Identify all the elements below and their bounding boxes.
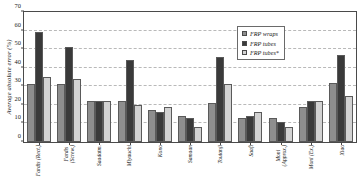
bar bbox=[43, 77, 51, 142]
bar bbox=[95, 101, 103, 142]
x-axis-label-cell: Fardis(Screw.) bbox=[53, 144, 83, 191]
bar-group bbox=[145, 12, 175, 142]
bar-group bbox=[84, 12, 114, 142]
x-axis-label: Moni (Ex.) bbox=[308, 145, 314, 169]
bar-group bbox=[115, 12, 145, 142]
bar bbox=[87, 101, 95, 142]
x-axis-label-cell: Kono bbox=[144, 144, 174, 191]
bar bbox=[277, 122, 285, 142]
x-axis-label-cell: Miyauchi bbox=[114, 144, 144, 191]
y-axis-title: Average absolute error (%) bbox=[5, 12, 12, 142]
x-axis-label-cell: Samaan bbox=[175, 144, 205, 191]
bar bbox=[27, 84, 35, 142]
bar bbox=[73, 79, 81, 142]
x-axis-label-cell: Saadatm. bbox=[84, 144, 114, 191]
legend-item: FRP tubes bbox=[242, 40, 279, 47]
bar bbox=[329, 83, 337, 142]
y-axis-tick-label: 70 bbox=[15, 2, 21, 9]
bars-area bbox=[24, 12, 356, 142]
plot-frame: Average absolute error (%) 0102030405060… bbox=[23, 11, 357, 143]
x-axis-labels: Fardis (Rect.)Fardis(Screw.)Saadatm.Miya… bbox=[23, 144, 357, 191]
bar bbox=[65, 47, 73, 142]
x-axis-label-cell: Xiao bbox=[327, 144, 357, 191]
legend-item: FRP tubes* bbox=[242, 49, 279, 56]
bar bbox=[118, 101, 126, 142]
y-axis-tick-label: 40 bbox=[15, 57, 21, 64]
bar-chart-figure: Average absolute error (%) 0102030405060… bbox=[0, 0, 362, 191]
x-axis-label: Toutanji bbox=[217, 145, 223, 163]
x-axis-label-cell: Fardis (Rect.) bbox=[23, 144, 53, 191]
bar bbox=[57, 84, 65, 142]
x-axis-label-cell: Moni (Ex.) bbox=[296, 144, 326, 191]
x-axis-label: Xiao bbox=[339, 145, 345, 156]
bar bbox=[216, 57, 224, 142]
y-axis-tick-label: 10 bbox=[15, 113, 21, 120]
legend-label-frp-tubes: FRP tubes bbox=[250, 40, 276, 47]
legend-item: FRP wraps bbox=[242, 30, 279, 37]
y-axis-tick-label: 0 bbox=[18, 132, 21, 139]
x-axis-label-cell: Toutanji bbox=[205, 144, 235, 191]
bar bbox=[254, 112, 262, 142]
bar-group bbox=[296, 12, 326, 142]
x-axis-label: Kono bbox=[157, 145, 163, 157]
bar bbox=[148, 110, 156, 142]
x-axis-label: Samaan bbox=[187, 145, 193, 163]
bar bbox=[156, 112, 164, 142]
bar bbox=[345, 96, 353, 142]
bar bbox=[337, 55, 345, 142]
x-axis-label: Fardis(Screw.) bbox=[63, 145, 75, 163]
x-axis-label: Saafi bbox=[248, 145, 254, 157]
x-axis-label-cell: Saafi bbox=[236, 144, 266, 191]
bar bbox=[307, 101, 315, 142]
bar bbox=[134, 105, 142, 142]
legend-swatch-frp-tubes bbox=[242, 41, 247, 46]
bar bbox=[103, 101, 111, 142]
bar bbox=[194, 127, 202, 142]
bar bbox=[35, 32, 43, 142]
legend-label-frp-tubes-star: FRP tubes* bbox=[250, 49, 279, 56]
bar bbox=[164, 107, 172, 142]
bar-group bbox=[326, 12, 356, 142]
bar bbox=[186, 118, 194, 142]
bar bbox=[299, 107, 307, 142]
bar bbox=[126, 60, 134, 142]
bar-group bbox=[54, 12, 84, 142]
bar-group bbox=[24, 12, 54, 142]
bar bbox=[224, 84, 232, 142]
bar bbox=[178, 116, 186, 142]
y-axis-tick-label: 60 bbox=[15, 20, 21, 27]
y-axis-tick-label: 20 bbox=[15, 94, 21, 101]
bar bbox=[285, 127, 293, 142]
x-axis-label-cell: Moni(Approx.) bbox=[266, 144, 296, 191]
chart-legend: FRP wraps FRP tubes FRP tubes* bbox=[237, 26, 285, 60]
legend-swatch-frp-wraps bbox=[242, 31, 247, 36]
bar bbox=[238, 118, 246, 142]
bar bbox=[269, 118, 277, 142]
bar bbox=[208, 103, 216, 142]
bar bbox=[315, 101, 323, 142]
bar-group bbox=[175, 12, 205, 142]
y-axis-tick-label: 50 bbox=[15, 39, 21, 46]
legend-label-frp-wraps: FRP wraps bbox=[250, 30, 278, 37]
x-axis-label: Saadatm. bbox=[96, 145, 102, 166]
bar-group bbox=[205, 12, 235, 142]
x-axis-label: Fardis (Rect.) bbox=[35, 145, 41, 176]
x-axis-label: Moni(Approx.) bbox=[275, 145, 287, 166]
bar bbox=[246, 116, 254, 142]
y-axis-tick-label: 30 bbox=[15, 76, 21, 83]
x-axis-label: Miyauchi bbox=[126, 145, 132, 166]
legend-swatch-frp-tubes-star bbox=[242, 50, 247, 55]
